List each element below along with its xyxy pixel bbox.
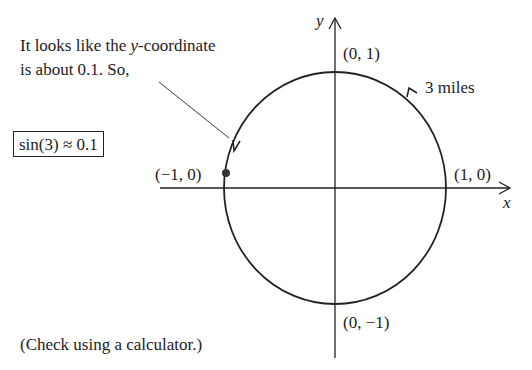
x-axis-label: x [503, 194, 511, 211]
point-label-right: (1, 0) [454, 166, 491, 183]
result-box: sin(3) ≈ 0.1 [13, 131, 104, 157]
counterclockwise-arrow-icon [407, 88, 417, 97]
point-label-left: (−1, 0) [155, 166, 201, 183]
unit-circle-diagram [0, 0, 532, 370]
point-label-top: (0, 1) [343, 45, 380, 62]
footnote: (Check using a calculator.) [20, 336, 202, 353]
y-axis-label: y [316, 12, 324, 29]
point-marker [222, 169, 230, 177]
point-label-bottom: (0, −1) [343, 314, 389, 331]
annotation-line-2: is about 0.1. So, [20, 61, 130, 78]
pointer-line [159, 82, 229, 138]
arc-length-label: 3 miles [425, 79, 475, 96]
annotation-line-1: It looks like the y-coordinate [20, 37, 215, 54]
